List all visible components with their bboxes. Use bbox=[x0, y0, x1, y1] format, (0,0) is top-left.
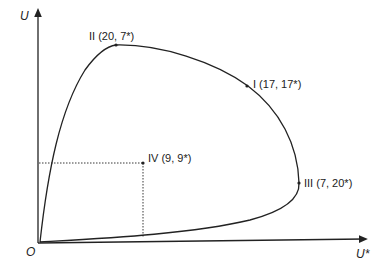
origin-label: O bbox=[26, 245, 35, 259]
point-ii-label: II (20, 7*) bbox=[89, 30, 134, 42]
x-axis-label: U* bbox=[356, 247, 370, 261]
y-axis-label: U bbox=[20, 9, 29, 23]
point-iii bbox=[297, 181, 300, 184]
point-ii bbox=[114, 43, 117, 46]
utility-frontier-diagram: U U* O II (20, 7*) I (17, 17*) III (7, 2… bbox=[0, 0, 386, 267]
point-iv bbox=[141, 161, 144, 164]
point-iv-label: IV (9, 9*) bbox=[148, 152, 191, 164]
point-i-label: I (17, 17*) bbox=[253, 78, 301, 90]
frontier-curve bbox=[40, 45, 299, 242]
point-iii-label: III (7, 20*) bbox=[304, 177, 352, 189]
point-i bbox=[245, 84, 248, 87]
